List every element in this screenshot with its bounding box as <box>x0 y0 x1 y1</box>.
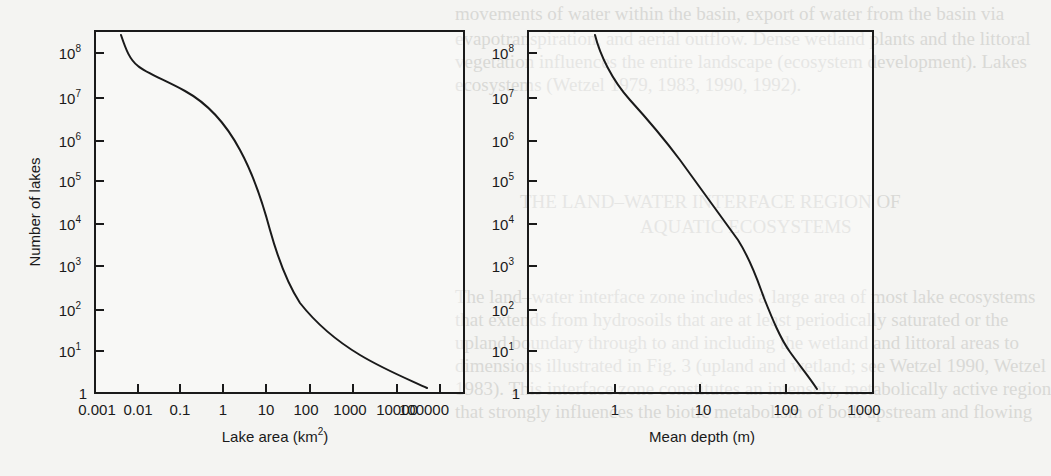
x-axis-title: Mean depth (m) <box>649 428 755 445</box>
y-tick-label: 104 <box>59 214 82 233</box>
lake-area-chart: 11011021031041051061071080.0010.010.1110… <box>26 31 464 445</box>
y-tick-label: 102 <box>59 300 82 319</box>
y-tick-label: 1 <box>79 385 87 402</box>
y-tick-label: 103 <box>492 256 515 275</box>
x-tick-label: 1 <box>611 401 619 418</box>
y-tick-label: 105 <box>492 171 515 190</box>
x-tick-label: 1000 <box>847 401 880 418</box>
y-axis-title: Number of lakes <box>26 157 43 266</box>
x-tick-label: 100 <box>293 401 318 418</box>
plot-frame <box>528 31 873 393</box>
x-tick-label: 10 <box>258 401 275 418</box>
y-tick-label: 108 <box>492 43 515 62</box>
x-tick-label: 100 <box>773 401 798 418</box>
x-tick-label: 1000 <box>333 401 366 418</box>
y-tick-label: 101 <box>59 341 82 360</box>
x-axis-title: Lake area (km2) <box>222 426 328 445</box>
y-tick-label: 107 <box>492 88 515 107</box>
y-tick-label: 102 <box>492 300 515 319</box>
y-tick-label: 103 <box>59 256 82 275</box>
y-tick-label: 101 <box>492 341 515 360</box>
x-tick-label: 100000 <box>399 401 449 418</box>
y-tick-label: 1 <box>512 385 520 402</box>
y-tick-label: 106 <box>59 131 82 150</box>
x-tick-label: 1 <box>219 401 227 418</box>
x-tick-label: 0.1 <box>170 401 191 418</box>
y-tick-label: 106 <box>492 131 515 150</box>
x-tick-label: 0.001 <box>78 401 116 418</box>
y-tick-label: 104 <box>492 214 515 233</box>
x-tick-label: 10 <box>695 401 712 418</box>
x-tick-label: 0.01 <box>123 401 152 418</box>
plot-frame <box>95 31 464 393</box>
mean-depth-chart: 11011021031041051061071081101001000Mean … <box>492 31 881 445</box>
y-tick-label: 107 <box>59 88 82 107</box>
y-tick-label: 108 <box>59 43 82 62</box>
y-tick-label: 105 <box>59 171 82 190</box>
